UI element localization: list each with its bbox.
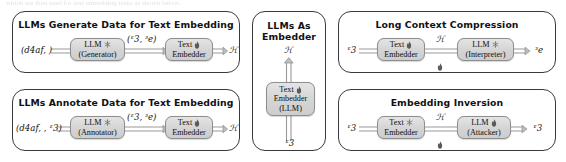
node-line-1: LLM (84, 40, 110, 49)
node-llm-generator[interactable]: LLM (Generator) (70, 38, 125, 61)
node-sublabel: (Generator) (78, 50, 116, 59)
snowflake-icon (104, 119, 111, 126)
node-line-1: LLM (84, 118, 110, 127)
panel-title-line-1: LLMs As (253, 20, 325, 31)
node-llm-attacker[interactable]: LLM (Attacker) (457, 116, 511, 139)
panel-long-context-compression: Long Context Compression ᵋ3 Text Embedde… (338, 11, 556, 73)
node-text-embedder[interactable]: Text Embedder (377, 116, 425, 139)
node-label: LLM (471, 118, 488, 127)
flame-icon (491, 119, 497, 127)
mid-label: ℋ (436, 34, 444, 44)
node-line-1: Text (178, 40, 200, 49)
node-label: Text (178, 118, 192, 127)
node-line-1: Text (390, 40, 412, 49)
node-line-1: Text (178, 118, 200, 127)
node-sublabel: Embedder (274, 94, 308, 103)
node-label: Text (279, 85, 293, 94)
mid-label: (ᵋ3, ᵌe) (127, 34, 156, 44)
page-bleed-text: which are then used for text embedding t… (6, 0, 256, 7)
node-llm-interpreter[interactable]: LLM (Interpreter) (457, 38, 514, 61)
snowflake-icon (104, 41, 111, 48)
input-label: (d4af, ℰ) (21, 45, 52, 55)
flame-icon (437, 57, 443, 75)
connector-input-to-embedder (359, 124, 379, 134)
connector-llm-to-output (510, 124, 528, 134)
node-line-1: LLM (471, 118, 496, 127)
node-label: LLM (84, 118, 101, 127)
output-label: ℋ (229, 123, 237, 133)
connector-embedder-to-llm (424, 46, 458, 56)
flame-icon (194, 41, 200, 49)
node-label: Text (178, 40, 192, 49)
connector-llm-to-output (513, 46, 531, 56)
mid-label: ℋ (436, 112, 444, 122)
snowflake-icon (406, 119, 413, 126)
node-label: LLM (472, 40, 489, 49)
node-text-embedder[interactable]: Text Embedder (165, 38, 213, 61)
panel-llms-annotate-data: LLMs Annotate Data for Text Embedding (… (12, 89, 240, 151)
node-text-embedder[interactable]: Text Embedder (377, 38, 425, 61)
connector-input-to-embedder (359, 46, 379, 56)
node-label: LLM (84, 40, 101, 49)
connector-embedder-to-llm (424, 124, 458, 134)
output-label: ᵌe (535, 45, 543, 55)
input-label: ᵋ3 (285, 138, 294, 148)
panel-embedding-inversion: Embedding Inversion ᵋ3 Text (338, 89, 556, 151)
node-label: Text (390, 40, 404, 49)
node-line-1: Text (389, 118, 412, 127)
node-sublabel: Embedder (172, 128, 206, 137)
input-label: ᵋ3 (347, 45, 356, 55)
panel-title: Embedding Inversion (339, 97, 555, 108)
output-label: ᵋ3 (533, 123, 542, 133)
node-sublabel: (Attacker) (467, 128, 501, 137)
connector-embedder-to-output (283, 57, 295, 83)
panel-title: LLMs Generate Data for Text Embedding (13, 19, 239, 30)
node-sublabel: Embedder (384, 128, 418, 137)
panel-title: Long Context Compression (339, 19, 555, 30)
flame-icon (194, 119, 200, 127)
figure-root: which are then used for text embedding t… (0, 0, 566, 162)
input-label: (d4af, ℰ, ᵋ3) (16, 123, 62, 133)
node-sublabel: Embedder (384, 50, 418, 59)
connector-llm-to-embedder (124, 46, 168, 56)
input-label: ᵋ3 (347, 123, 356, 133)
output-label: ℋ (284, 45, 292, 55)
node-line-1: LLM (472, 40, 498, 49)
flame-icon (437, 135, 443, 153)
node-llm-annotator[interactable]: LLM (Annotator) (70, 116, 125, 139)
connector-llm-to-embedder (124, 124, 168, 134)
snowflake-icon (492, 41, 499, 48)
panel-title-line-2: Embedder (253, 31, 325, 42)
node-sublabel: (Annotator) (78, 128, 117, 137)
node-text-embedder[interactable]: Text Embedder (165, 116, 213, 139)
flame-icon (296, 86, 302, 94)
node-sublabel: (Interpreter) (466, 50, 506, 59)
node-sublabel: Embedder (172, 50, 206, 59)
node-subsublabel: (LLM) (279, 104, 302, 113)
node-label: Text (389, 118, 403, 127)
connector-embedder-to-output (212, 46, 228, 56)
mid-label: (ᵋ3, ᵌe) (127, 112, 156, 122)
node-text-embedder-llm[interactable]: Text Embedder (LLM) (266, 82, 315, 116)
panel-llms-generate-data: LLMs Generate Data for Text Embedding (… (12, 11, 240, 73)
panel-title: LLMs Annotate Data for Text Embedding (13, 97, 239, 108)
output-label: ℋ (229, 45, 237, 55)
connector-embedder-to-output (212, 124, 228, 134)
flame-icon (406, 41, 412, 49)
node-line-1: Text (279, 85, 301, 94)
panel-llms-as-embedder: LLMs As Embedder ℋ Text Embedder (LLM) (252, 11, 326, 151)
